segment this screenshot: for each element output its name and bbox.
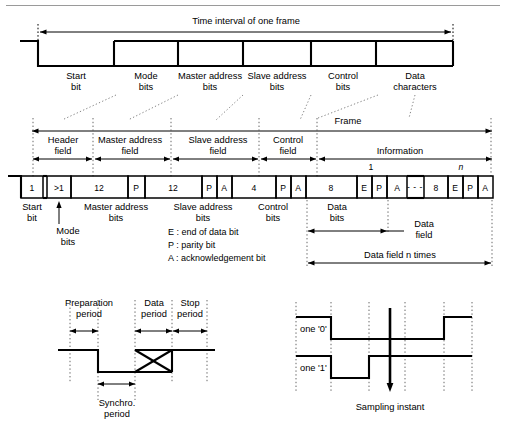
cell-ellipsis: - - -	[407, 182, 423, 192]
cell-value-2: 12	[94, 183, 104, 193]
bit-label-1-line1: Mode	[56, 226, 79, 236]
legend-line-2: A : acknowledgement bit	[168, 253, 266, 263]
synchro-period-arrow	[98, 382, 135, 387]
top-seg-label-2-line1: Master address	[178, 71, 242, 81]
cell-value-7: 4	[252, 183, 257, 193]
top-seg-label-4-line2: bits	[336, 82, 351, 92]
top-waveform-trace	[20, 41, 453, 66]
top-seg-label-1-line2: bits	[139, 82, 154, 92]
cell-value-3: P	[133, 183, 139, 193]
bit-timing-periods-diagram: Preparation period Data period Stop peri…	[58, 298, 215, 419]
trace-label-one: one '1'	[300, 363, 327, 373]
cell-value-10: 8	[329, 183, 334, 193]
period-label-3-line2: period	[104, 409, 130, 419]
cell-value-12: P	[376, 183, 382, 193]
frame-field-labels: Header field Master address field Slave …	[48, 135, 424, 156]
figure-root: Time interval of one frame Start bit Mod…	[0, 0, 506, 433]
period-label-0-line1: Preparation	[65, 298, 113, 308]
field-label-1-line2: field	[121, 146, 138, 156]
data-period-arrow	[135, 329, 172, 334]
field-label-2-line2: field	[209, 146, 226, 156]
bit-label-2-line2: bits	[109, 213, 124, 223]
legend-line-0: E : end of data bit	[168, 227, 239, 237]
frame-span-arrow	[32, 128, 492, 133]
data-field-n-times-label: Data field n times	[364, 250, 436, 260]
bit-label-0-line2: bit	[27, 213, 37, 223]
top-seg-label-4-line1: Control	[328, 71, 358, 81]
bit-label-5-line2: bits	[330, 213, 345, 223]
top-seg-label-0-line1: Start	[66, 71, 86, 81]
bit-label-2-line1: Master address	[84, 202, 148, 212]
top-waveform-labels: Start bit Mode bits Master address bits …	[66, 71, 437, 92]
cell-value-1: >1	[54, 183, 64, 193]
cell-value-15: E	[452, 183, 458, 193]
period-label-2-line1: Stop	[180, 298, 199, 308]
frame-structure-figure: Time interval of one frame Start bit Mod…	[0, 0, 506, 433]
preparation-period-arrow	[70, 329, 98, 334]
frame-legend: E : end of data bit P : parity bit A : a…	[168, 227, 266, 263]
cell-value-11: E	[361, 183, 367, 193]
period-label-2-line2: period	[177, 309, 203, 319]
cell-value-9: A	[295, 183, 301, 193]
bit-label-3-line2: bits	[196, 213, 211, 223]
zero-one-sampling-diagram: one '0' one '1' Sampling instant	[296, 302, 472, 412]
cell-value-13: A	[394, 183, 400, 193]
period-label-1-line2: period	[141, 309, 167, 319]
top-seg-label-3-line1: Slave address	[248, 71, 307, 81]
cell-value-17: A	[482, 183, 488, 193]
cell-value-4: 12	[168, 183, 178, 193]
period-label-0-line2: period	[76, 309, 102, 319]
bit-label-1-line2: bits	[61, 237, 76, 247]
frame-span-label: Frame	[335, 116, 362, 126]
expansion-connectors	[62, 95, 415, 120]
top-seg-label-2-line2: bits	[203, 82, 218, 92]
cell-value-5: P	[206, 183, 212, 193]
bit-label-4-line2: bits	[266, 213, 281, 223]
cell-value-8: P	[280, 183, 286, 193]
trace-label-zero: one '0'	[300, 324, 327, 334]
sampling-instant-marker	[387, 308, 394, 392]
bit-label-6-line1: Data	[414, 219, 434, 229]
field-label-4-line1: Information	[377, 146, 424, 156]
information-index-last: n	[459, 162, 464, 172]
field-label-3-line2: field	[279, 146, 296, 156]
mode-bits-pointer-arrow	[56, 201, 61, 224]
top-seg-label-3-line2: bits	[270, 82, 285, 92]
frame-field-span-arrows	[33, 157, 492, 162]
legend-line-1: P : parity bit	[168, 240, 216, 250]
bit-label-6-line2: field	[415, 230, 432, 240]
field-label-0-line1: Header	[48, 135, 79, 145]
stop-period-arrow	[173, 329, 207, 334]
field-label-2-line1: Slave address	[189, 135, 248, 145]
top-waveform-section: Time interval of one frame Start bit Mod…	[20, 16, 453, 120]
field-label-3-line1: Control	[273, 135, 303, 145]
bit-timing-waveform	[58, 350, 215, 372]
top-seg-label-5-line2: characters	[393, 82, 437, 92]
top-seg-label-0-line2: bit	[71, 82, 81, 92]
frame-interval-label: Time interval of one frame	[192, 16, 300, 26]
sampling-instant-label: Sampling instant	[356, 402, 425, 412]
cell-value-16: P	[467, 183, 473, 193]
frame-interval-arrow	[40, 29, 451, 34]
frame-cell-row: 1 >1 12 P 12 P A 4 P A 8 E P A 8 E P A -…	[8, 176, 493, 198]
cell-value-0: 1	[30, 183, 35, 193]
bit-label-4-line1: Control	[258, 202, 288, 212]
top-seg-label-5-line1: Data	[405, 71, 425, 81]
cell-value-6: A	[221, 183, 227, 193]
bit-label-5-line1: Data	[327, 202, 347, 212]
frame-detail-section: Frame Header field Master address field …	[8, 116, 493, 268]
bit-label-3-line1: Slave address	[174, 202, 233, 212]
bit-label-0-line1: Start	[22, 202, 42, 212]
top-seg-label-1-line1: Mode	[134, 71, 157, 81]
field-label-0-line2: field	[54, 146, 71, 156]
frame-bit-labels: Start bit Mode bits Master address bits …	[22, 201, 434, 247]
period-label-1-line1: Data	[144, 298, 164, 308]
field-label-1-line1: Master address	[98, 135, 162, 145]
period-label-3-line1: Synchro.	[99, 398, 136, 408]
cell-value-14: 8	[434, 183, 439, 193]
information-index-first: 1	[369, 162, 374, 172]
